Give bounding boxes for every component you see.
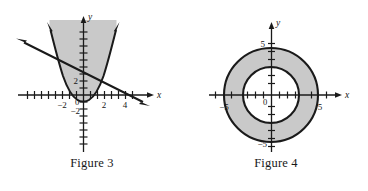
figure-4-origin-label: 0 xyxy=(263,97,267,107)
figure-3-panel: x y 0 −2 2 4 2 −2 Figure 3 xyxy=(0,0,184,191)
figure-3-y-tick-label-neg2: −2 xyxy=(70,106,80,116)
figure-4-x-axis-label: x xyxy=(344,90,350,100)
figure-3-y-tick-label-2: 2 xyxy=(74,76,79,86)
figure-4-panel: x y 0 −5 5 5 −5 Figure 4 xyxy=(184,0,368,191)
figure-4-plot: x y 0 −5 5 5 −5 xyxy=(184,0,368,160)
figure-3-x-tick-label-4: 4 xyxy=(123,100,128,110)
figure-3-x-axis-label: x xyxy=(156,90,162,100)
figure-4-x-tick-label-neg5: −5 xyxy=(219,102,229,112)
figure-4-y-tick-label-neg5: −5 xyxy=(257,139,267,149)
figure-3-x-tick-label-neg2: −2 xyxy=(57,100,67,110)
figure-3-y-axis-label: y xyxy=(87,12,93,22)
figure-3-x-tick-label-2: 2 xyxy=(102,100,107,110)
figure-4-x-tick-label-5: 5 xyxy=(318,102,323,112)
figure-3-plot: x y 0 −2 2 4 2 −2 xyxy=(0,0,184,160)
figure-4-y-tick-label-5: 5 xyxy=(261,39,266,49)
figure-4-caption: Figure 4 xyxy=(184,156,368,171)
figure-4-y-axis-label: y xyxy=(275,18,281,28)
figure-3-caption: Figure 3 xyxy=(0,156,184,171)
